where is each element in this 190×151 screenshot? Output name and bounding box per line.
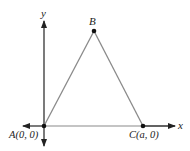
point-A-label: A(0, 0) — [8, 129, 39, 141]
point-C — [141, 124, 146, 129]
point-A — [42, 124, 47, 129]
side-BC — [94, 31, 143, 126]
diagram-canvas: y x B A(0, 0) C(a, 0) — [0, 0, 190, 151]
y-axis-label: y — [40, 7, 46, 19]
point-B-label: B — [89, 15, 96, 27]
point-C-label: C(a, 0) — [129, 129, 159, 141]
side-AB — [44, 31, 94, 126]
x-axis-label: x — [177, 119, 183, 131]
triangle-diagram: y x B A(0, 0) C(a, 0) — [0, 0, 190, 151]
point-B — [92, 29, 97, 34]
